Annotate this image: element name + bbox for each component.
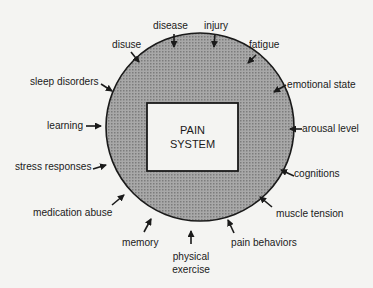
factor-disuse: disuse	[112, 38, 141, 51]
factor-pain-behaviors: pain behaviors	[231, 236, 297, 249]
factor-cognitions: cognitions	[294, 167, 340, 180]
arrow-memory	[144, 219, 151, 232]
factor-medication-abuse: medication abuse	[33, 206, 112, 219]
arrow-pain-behaviors	[228, 220, 234, 233]
arrow-sleep-disorders	[101, 84, 112, 91]
factor-physical-exercise-line1: physical	[173, 250, 210, 262]
factor-arousal-level: arousal level	[302, 122, 359, 135]
factor-stress-responses: stress responses	[15, 160, 92, 173]
arrow-cognitions	[281, 170, 294, 176]
factor-fatigue: fatigue	[249, 38, 279, 51]
factor-learning: learning	[47, 119, 83, 132]
factor-physical-exercise-line2: exercise	[172, 263, 210, 275]
factor-physical-exercise: physical exercise	[171, 250, 211, 276]
arrow-stress-responses	[93, 165, 106, 169]
arrow-muscle-tension	[260, 197, 272, 207]
pain-system-diagram: PAIN SYSTEM disease injury fatigue emoti…	[0, 0, 373, 288]
factor-muscle-tension: muscle tension	[276, 207, 344, 220]
arrow-injury	[214, 34, 215, 47]
pain-system-line2: SYSTEM	[170, 137, 215, 151]
factor-sleep-disorders: sleep disorders	[30, 75, 99, 88]
factor-emotional-state: emotional state	[287, 78, 356, 91]
arrow-medication-abuse	[112, 195, 124, 205]
factor-injury: injury	[204, 19, 228, 32]
pain-system-line1: PAIN	[180, 123, 205, 137]
factor-disease: disease	[153, 19, 188, 32]
factor-memory: memory	[122, 236, 159, 249]
pain-system-label: PAIN SYSTEM	[147, 103, 238, 171]
